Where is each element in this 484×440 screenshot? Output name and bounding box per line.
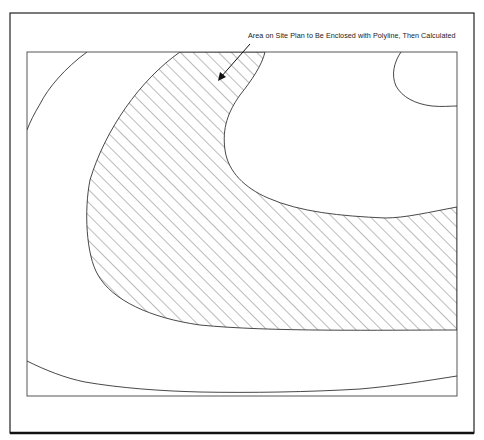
- bottom-contour: [27, 361, 457, 392]
- callout-label: Area on Site Plan to Be Enclosed with Po…: [248, 31, 456, 40]
- site-plan-diagram: [0, 0, 484, 440]
- top-right-contour: [394, 52, 457, 106]
- left-contour: [27, 52, 87, 130]
